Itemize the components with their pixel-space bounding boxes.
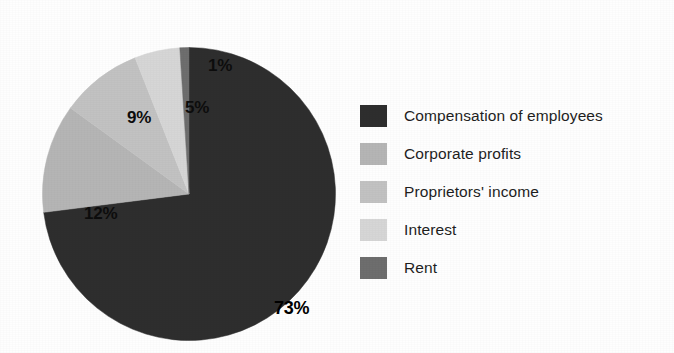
legend-item-proprietors-income: Proprietors' income [360,173,660,211]
legend-item-label: Corporate profits [404,145,521,163]
legend-swatch-icon [360,105,387,127]
legend-item-label: Rent [404,259,437,277]
legend-item-label: Compensation of employees [404,107,603,125]
legend-item-rent: Rent [360,249,660,287]
slice-label-compensation: 73% [274,299,309,317]
pie-svg [42,47,336,341]
slice-label-corporate: 12% [84,205,117,222]
legend-item-label: Interest [404,221,457,239]
legend-item-label: Proprietors' income [404,183,539,201]
chart-legend: Compensation of employees Corporate prof… [360,97,660,287]
legend-item-corporate-profits: Corporate profits [360,135,660,173]
pie-chart-figure: 73% 12% 9% 5% 1% Compensation of employe… [0,0,674,353]
legend-swatch-icon [360,143,387,165]
slice-label-interest: 5% [185,99,209,116]
slice-label-proprietors: 9% [127,109,151,126]
pie-chart: 73% 12% 9% 5% 1% [42,47,336,341]
legend-swatch-icon [360,181,387,203]
legend-item-compensation-of-employees: Compensation of employees [360,97,660,135]
legend-swatch-icon [360,257,387,279]
legend-item-interest: Interest [360,211,660,249]
legend-swatch-icon [360,219,387,241]
slice-label-rent: 1% [208,57,232,74]
